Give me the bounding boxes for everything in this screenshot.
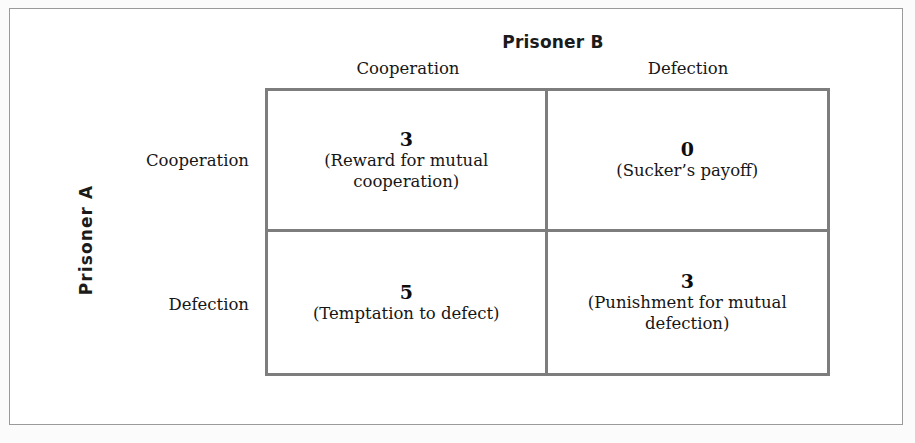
payoff-description: (Punishment for mutual defection) — [571, 293, 803, 335]
payoff-value: 5 — [400, 281, 413, 304]
payoff-value: 3 — [400, 128, 413, 151]
matrix-cell-defect-defect: 3 (Punishment for mutual defection) — [548, 232, 828, 373]
matrix-cell-cooperate-cooperate: 3 (Reward for mutual cooperation) — [268, 91, 548, 232]
column-headers: Cooperation Defection — [268, 59, 828, 78]
payoff-description: (Temptation to defect) — [313, 304, 500, 325]
payoff-matrix: 3 (Reward for mutual cooperation) 0 (Suc… — [265, 88, 830, 376]
row-headers: Cooperation Defection — [120, 88, 260, 376]
column-header-cooperation: Cooperation — [268, 59, 548, 78]
row-header-cooperation: Cooperation — [120, 88, 260, 232]
row-group-title-label: Prisoner A — [76, 185, 96, 296]
matrix-cell-defect-cooperate: 5 (Temptation to defect) — [268, 232, 548, 373]
payoff-description: (Sucker’s payoff) — [616, 161, 758, 182]
column-group-title: Prisoner B — [268, 32, 838, 52]
row-header-defection: Defection — [120, 232, 260, 376]
payoff-value: 0 — [681, 138, 694, 161]
payoff-description: (Reward for mutual cooperation) — [290, 151, 522, 193]
column-header-defection: Defection — [548, 59, 828, 78]
matrix-cell-cooperate-defect: 0 (Sucker’s payoff) — [548, 91, 828, 232]
figure-root: Prisoner B Cooperation Defection Prisone… — [0, 0, 915, 443]
payoff-value: 3 — [681, 270, 694, 293]
